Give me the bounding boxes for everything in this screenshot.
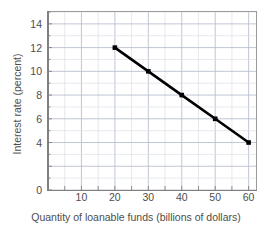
y-tick-label: 6	[36, 114, 42, 125]
x-tick-label: 60	[243, 192, 255, 203]
y-tick-label: 12	[30, 42, 42, 53]
x-tick-label: 20	[109, 192, 121, 203]
line-chart: 0468101214 102030405060 Quantity of loan…	[0, 0, 272, 233]
x-tick-label: 30	[142, 192, 154, 203]
y-tick-label: 0	[36, 185, 42, 196]
y-tick-label: 4	[36, 137, 42, 148]
top-spine	[47, 11, 257, 12]
x-tick-label: 40	[176, 192, 188, 203]
y-tick-label: 14	[30, 19, 42, 30]
y-tick-label: 8	[36, 90, 42, 101]
plot-area	[48, 12, 257, 190]
x-tick-label: 50	[209, 192, 221, 203]
right-spine	[256, 11, 257, 190]
x-tick-label: 10	[76, 192, 88, 203]
x-axis-title: Quantity of loanable funds (billions of …	[0, 211, 272, 223]
y-axis-line	[47, 11, 49, 191]
y-tick-label: 10	[30, 66, 42, 77]
gridlines	[48, 12, 257, 190]
y-axis-title: Interest rate (percent)	[11, 29, 23, 179]
